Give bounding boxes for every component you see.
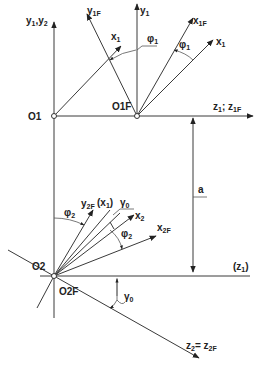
label-z1-z1f: z1; z1F: [213, 101, 242, 113]
label-o2: O2: [32, 261, 46, 272]
axis-x1-from-o1f: [137, 40, 213, 116]
label-x1-top: x1: [111, 31, 121, 43]
axis-extension-lower-left: [37, 276, 54, 308]
label-gamma0-bottom: γ0: [124, 291, 134, 303]
label-o2f: O2F: [59, 286, 78, 297]
label-dimension-a: a: [198, 184, 204, 195]
label-y1: y1: [140, 5, 150, 17]
label-y2f: y2F: [81, 198, 95, 210]
label-x1f: x1F: [193, 15, 207, 27]
label-o1f: O1F: [112, 101, 131, 112]
label-x1-paren: (x1): [97, 197, 113, 209]
label-gamma0-top: γ0: [120, 197, 130, 209]
label-y1-y2: y1,y2: [26, 15, 48, 27]
label-x1-right: x1: [216, 36, 226, 48]
axis-x2: [54, 215, 134, 276]
label-x2f: x2F: [157, 222, 171, 234]
coordinate-frame-diagram: y1,y2 y1F x1 y1 φ1 x1F φ1 x1 O1 O1F z1; …: [0, 0, 258, 368]
label-y1f: y1F: [87, 5, 101, 17]
axis-x1-lower: [54, 210, 110, 276]
axis-x2f: [54, 236, 156, 276]
angle-arc-gamma0-arrow: [110, 300, 117, 308]
axis-x1-from-o1: [54, 46, 121, 116]
origin-o2-marker: [52, 274, 57, 279]
angle-arc-phi1-right: [174, 50, 193, 60]
label-x2: x2: [135, 210, 145, 222]
angle-arc-phi2-left: [54, 218, 84, 225]
label-phi1-top: φ1: [147, 33, 158, 45]
label-z1-paren: (z1): [233, 261, 249, 273]
axis-y2f: [54, 210, 93, 276]
angle-arc-phi1-top: [110, 50, 136, 60]
tick-x1-x2: [110, 222, 114, 229]
label-phi2-right: φ2: [121, 228, 132, 240]
leader-phi1-top: [137, 46, 142, 50]
label-phi2-left: φ2: [64, 207, 75, 219]
origin-o1f-marker: [135, 114, 140, 119]
axis-x1f: [137, 18, 193, 116]
label-z2-z2f: z2= z2F: [186, 340, 217, 352]
label-phi1-right: φ1: [179, 39, 190, 51]
label-o1: O1: [28, 111, 42, 122]
origin-o1-marker: [52, 114, 57, 119]
